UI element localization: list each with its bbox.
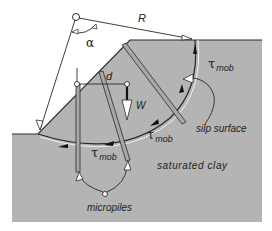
micropile-vertical (76, 84, 80, 172)
shear-label-middle: τmob (147, 126, 173, 142)
weight-label: W (136, 101, 145, 111)
soil-label: saturated clay (157, 161, 228, 171)
rotation-center-icon (73, 14, 80, 21)
arrowhead-toe (36, 120, 43, 130)
tau-symbol: τ (147, 127, 154, 142)
slip-surface-label: silp surface (196, 124, 247, 134)
arrowhead-crest (182, 35, 192, 40)
centroid-icon (125, 82, 130, 87)
slope-stability-diagram (0, 0, 272, 231)
micropiles-leader-node (103, 192, 108, 197)
mob-subscript: mob (155, 134, 173, 144)
shear-label-lower: τmob (91, 144, 117, 160)
tau-symbol: τ (91, 145, 98, 160)
mob-subscript: mob (216, 63, 234, 73)
centroid-reference-icon (75, 82, 80, 87)
shear-label-upper: τmob (208, 55, 234, 71)
micropiles-label: micropiles (87, 203, 132, 213)
tau-symbol: τ (208, 56, 215, 71)
angle-arrow-right (92, 24, 97, 29)
angle-label: α (86, 37, 94, 49)
mob-subscript: mob (99, 152, 117, 162)
angle-arrow-left (72, 29, 78, 34)
radius-label: R (138, 13, 146, 24)
lever-arm-label: d (106, 71, 112, 82)
